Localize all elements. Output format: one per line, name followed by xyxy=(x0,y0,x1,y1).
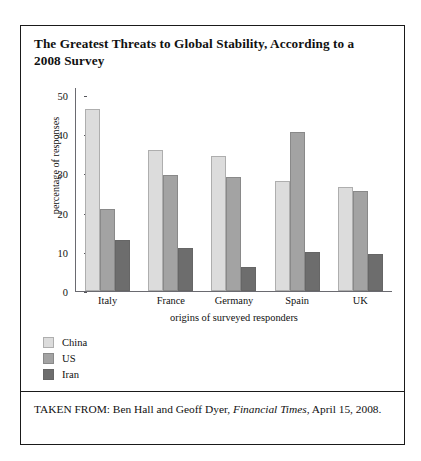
source-suffix: , April 15, 2008. xyxy=(307,403,382,415)
bar-china-spain xyxy=(275,181,290,291)
x-axis-line xyxy=(75,291,392,292)
x-tick-label: Germany xyxy=(207,295,261,306)
y-tick-label: 20 xyxy=(58,208,68,219)
y-tick-label: 30 xyxy=(58,169,68,180)
source-attribution: TAKEN FROM: Ben Hall and Geoff Dyer, Fin… xyxy=(34,401,386,417)
bar-group xyxy=(333,88,387,291)
source-divider xyxy=(21,391,404,392)
legend-item-iran: Iran xyxy=(43,366,87,382)
y-axis-tick-labels: 01020304050 xyxy=(46,88,72,292)
bar-china-italy xyxy=(85,109,100,291)
bar-iran-germany xyxy=(241,267,256,291)
bar-us-italy xyxy=(100,209,115,291)
source-publication: Financial Times xyxy=(233,403,307,415)
bars-layer xyxy=(76,88,392,291)
chart-axes xyxy=(75,88,392,292)
legend-swatch-us xyxy=(43,353,54,364)
bar-group xyxy=(81,88,135,291)
y-tick-label: 10 xyxy=(58,247,68,258)
legend-label: US xyxy=(62,353,76,364)
y-tick-label: 50 xyxy=(58,90,68,101)
legend-label: China xyxy=(62,337,87,348)
legend-label: Iran xyxy=(62,369,79,380)
figure-title: The Greatest Threats to Global Stability… xyxy=(34,35,384,70)
bar-chart-plot: percentage of responses 01020304050 Ital… xyxy=(34,88,392,318)
bar-iran-france xyxy=(178,248,193,291)
source-prefix: TAKEN FROM: Ben Hall and Geoff Dyer, xyxy=(34,403,233,415)
bar-china-germany xyxy=(211,156,226,291)
y-tick-mark xyxy=(84,292,87,293)
legend-swatch-china xyxy=(43,337,54,348)
bar-group xyxy=(270,88,324,291)
y-tick-label: 40 xyxy=(58,130,68,141)
bar-china-uk xyxy=(338,187,353,291)
chart-legend: ChinaUSIran xyxy=(43,334,87,382)
x-tick-label: Spain xyxy=(270,295,324,306)
bar-iran-spain xyxy=(305,252,320,291)
legend-swatch-iran xyxy=(43,369,54,380)
legend-item-china: China xyxy=(43,334,87,350)
bar-us-uk xyxy=(353,191,368,291)
bar-group xyxy=(144,88,198,291)
bar-us-germany xyxy=(226,177,241,291)
bar-iran-uk xyxy=(368,254,383,291)
bar-us-spain xyxy=(290,132,305,291)
bar-group xyxy=(207,88,261,291)
x-axis-title: origins of surveyed responders xyxy=(76,312,392,323)
bar-iran-italy xyxy=(115,240,130,291)
bar-us-france xyxy=(163,175,178,291)
figure-frame: The Greatest Threats to Global Stability… xyxy=(20,25,405,445)
x-tick-label: Italy xyxy=(81,295,135,306)
bar-china-france xyxy=(148,150,163,291)
legend-item-us: US xyxy=(43,350,87,366)
x-axis-tick-labels: ItalyFranceGermanySpainUK xyxy=(76,295,392,306)
y-tick-label: 0 xyxy=(63,287,68,298)
x-tick-label: UK xyxy=(333,295,387,306)
x-tick-label: France xyxy=(144,295,198,306)
